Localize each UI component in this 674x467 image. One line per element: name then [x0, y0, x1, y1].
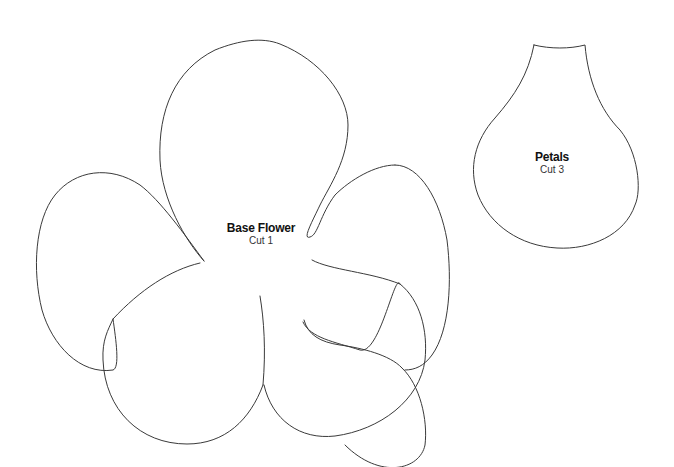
petal-outline [473, 45, 638, 248]
base-flower-left-petal [36, 173, 204, 371]
base-flower-instruction: Cut 1 [206, 235, 316, 246]
petals-title: Petals [512, 151, 592, 164]
base-flower-right-petal [395, 165, 449, 370]
pattern-outlines [0, 0, 674, 467]
base-flower-label: Base Flower Cut 1 [206, 222, 316, 246]
pattern-sheet: Base Flower Cut 1 Petals Cut 3 [0, 0, 674, 467]
base-flower-center-line [260, 296, 264, 385]
petals-instruction: Cut 3 [512, 164, 592, 175]
base-flower-bottom-right-curve [264, 260, 426, 437]
base-flower-bottom-left-petal [103, 263, 263, 444]
base-flower-title: Base Flower [206, 222, 316, 235]
petals-label: Petals Cut 3 [512, 151, 592, 175]
base-flower-bottom-right-petal [304, 320, 426, 467]
